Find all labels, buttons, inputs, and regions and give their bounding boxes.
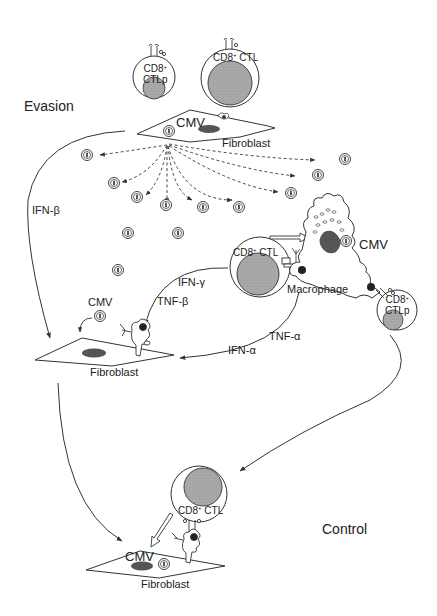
progression-arrow	[58, 383, 122, 541]
kill-arrow	[270, 233, 308, 242]
fibroblast-mid-label: Fibroblast	[90, 367, 138, 378]
tnf-alpha-label: TNF-α	[269, 331, 300, 342]
fibroblast-top-label: Fibroblast	[222, 138, 270, 149]
section-control-label: Control	[322, 522, 367, 536]
tcr-receptor-icon	[224, 38, 238, 49]
ctl-mid-cell	[230, 237, 294, 297]
macrophage-label: Macrophage	[287, 284, 348, 295]
ctlp-right-label: CD8+ CTLp	[385, 294, 409, 316]
tnf-beta-label: TNF-β	[157, 296, 188, 307]
ctl-top-label: CD8+ CTL	[213, 53, 258, 63]
macrophage-virus-label: CMV	[359, 238, 388, 251]
ctl-mid-label: CD8+ CTL	[233, 248, 278, 258]
ctl-bottom-label: CD8+ CTL	[178, 506, 223, 516]
fibroblast-bottom-virus-label: CMV	[125, 550, 154, 563]
fibroblast-top-virus-label: CMV	[176, 116, 205, 129]
fibroblast-mid-virus-label: CMV	[88, 297, 112, 308]
fibroblast-mid	[35, 311, 174, 367]
ifn-gamma-label: IFN-γ	[178, 277, 205, 288]
kill-arrow-bottom	[151, 513, 173, 547]
cmv-immune-diagram	[0, 0, 437, 616]
section-evasion-label: Evasion	[24, 99, 74, 113]
ifn-beta-label: IFN-β	[32, 205, 60, 216]
expansion-arrow	[240, 335, 401, 471]
ifn-alpha-label: IFN-α	[228, 345, 256, 356]
fibroblast-bottom-label: Fibroblast	[141, 579, 189, 590]
ctl-bottom-cell	[171, 466, 227, 533]
ctlp-top-label: CD8+ CTLp	[143, 63, 167, 85]
tcr-receptor-icon	[149, 44, 166, 56]
ctl-top-cell	[201, 38, 259, 107]
